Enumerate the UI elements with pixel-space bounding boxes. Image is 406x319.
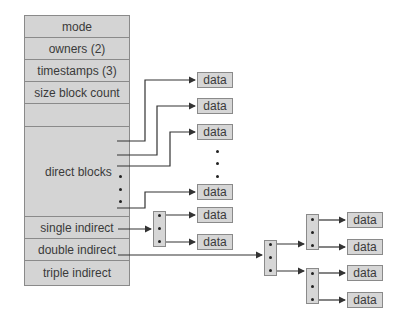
data-block: data — [197, 72, 233, 88]
pointer-dot — [158, 227, 161, 230]
data-block: data — [347, 212, 383, 228]
ellipsis-dot — [119, 188, 122, 191]
pointer-dot — [311, 244, 314, 247]
ellipsis-dot — [216, 162, 219, 165]
pointer-dot — [311, 298, 314, 301]
data-block: data — [197, 207, 233, 223]
pointer-dot — [269, 256, 272, 259]
pointer-dot — [269, 243, 272, 246]
pointer-dot — [158, 240, 161, 243]
ellipsis-dot — [119, 200, 122, 203]
ellipsis-dot — [119, 175, 122, 178]
pointer-dot — [311, 231, 314, 234]
ellipsis-dot — [216, 150, 219, 153]
data-block: data — [197, 124, 233, 140]
ellipsis-dot — [216, 175, 219, 178]
pointer-dot — [269, 269, 272, 272]
data-block: data — [197, 98, 233, 114]
pointer-arrows — [0, 0, 406, 319]
pointer-dot — [158, 214, 161, 217]
pointer-dot — [311, 218, 314, 221]
pointer-dot — [311, 272, 314, 275]
data-block: data — [197, 234, 233, 250]
data-block: data — [197, 184, 233, 200]
data-block: data — [347, 239, 383, 255]
pointer-dot — [311, 285, 314, 288]
data-block: data — [347, 265, 383, 281]
data-block: data — [347, 292, 383, 308]
